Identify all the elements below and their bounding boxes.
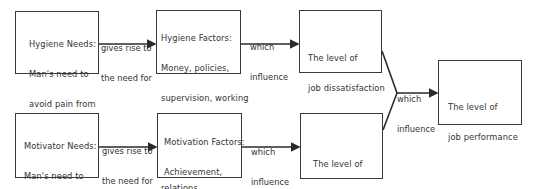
edge-label-line: the need for (102, 176, 153, 186)
edge-label-line: influence (250, 72, 288, 82)
edge-label-gives-rise-bottom: gives rise to the need for (102, 126, 153, 189)
edge-label-line: which (251, 147, 289, 157)
hygiene-factors-title: Hygiene Factors: (161, 33, 249, 43)
motivation-factors-box: Motivation Factors: Achievement, the job… (157, 113, 242, 178)
satisfaction-line: The level of (313, 159, 378, 169)
edge-label-line: influence (397, 124, 435, 134)
dissatisfaction-line: The level of (308, 53, 385, 63)
edge-label-line: gives rise to (101, 43, 152, 53)
hygiene-needs-title: Hygiene Needs: (29, 39, 96, 49)
motivation-factors-title: Motivation Factors: (164, 137, 245, 147)
edge-label-which-influence-final: which influence (397, 74, 435, 144)
motivator-needs-line: Man's need to (24, 171, 101, 181)
motivation-factors-line: Achievement, (164, 167, 245, 177)
hygiene-needs-box: Hygiene Needs: Man's need to avoid pain … (15, 11, 99, 74)
job-dissatisfaction-box: The level of job dissatisfaction (299, 10, 382, 73)
motivator-needs-box: Motivator Needs: Man's need to use talen… (15, 113, 99, 178)
edge-label-line: influence (251, 177, 289, 187)
edge-label-line: gives rise to (102, 146, 153, 156)
hygiene-factors-line: Money, policies, (161, 63, 249, 73)
hygiene-factors-box: Hygiene Factors: Money, policies, superv… (156, 10, 241, 74)
hygiene-needs-line: avoid pain from (29, 99, 96, 109)
performance-line: The level of (448, 102, 518, 112)
job-performance-box: The level of job performance (438, 60, 522, 125)
motivator-needs-title: Motivator Needs: (24, 141, 101, 151)
edge-label-line: which (397, 94, 435, 104)
edge-label-line: the need for (101, 73, 152, 83)
hygiene-needs-line: Man's need to (29, 69, 96, 79)
dissatisfaction-line: job dissatisfaction (308, 83, 385, 93)
performance-line: job performance (448, 132, 518, 142)
hygiene-factors-line: supervision, working (161, 93, 249, 103)
job-satisfaction-box: The level of job satisfaction (300, 113, 383, 179)
edge-label-which-influence-bottom: which influence (251, 127, 289, 189)
edge-label-line: which (250, 42, 288, 52)
edge-label-which-influence-top: which influence (250, 22, 288, 92)
edge-label-gives-rise-top: gives rise to the need for (101, 23, 152, 93)
